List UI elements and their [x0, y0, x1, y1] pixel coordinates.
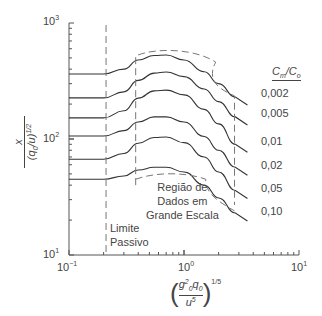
regiao-dados-label: Região de Dados em Grande Escala	[146, 180, 219, 222]
legend-item-0.005: 0,005	[261, 108, 289, 119]
curve-0,02	[69, 117, 247, 175]
legend-title: Cm/Co	[272, 66, 301, 81]
chart-plot	[0, 0, 322, 316]
legend-item-0.02: 0,02	[261, 160, 282, 171]
legend-item-0.05: 0,05	[261, 183, 282, 194]
y-tick-1000: 103	[43, 16, 59, 27]
x-tick-0.1: 10−1	[57, 262, 77, 273]
x-tick-10: 101	[291, 262, 307, 273]
legend-item-0.002: 0,002	[261, 88, 289, 99]
y-tick-100: 102	[43, 133, 59, 144]
x-tick-1: 100	[178, 262, 194, 273]
curve-0,01	[69, 90, 247, 152]
legend-item-0.10: 0,10	[261, 206, 282, 217]
limite-passivo-label: Limite Passivo	[110, 221, 149, 249]
y-tick-10: 101	[43, 249, 59, 260]
legend-item-0.01: 0,01	[261, 136, 282, 147]
x-axis-label: ( g20q0 u5 ) 1/5	[170, 278, 221, 308]
y-axis-label: x (q0/u)1/2	[12, 112, 40, 172]
